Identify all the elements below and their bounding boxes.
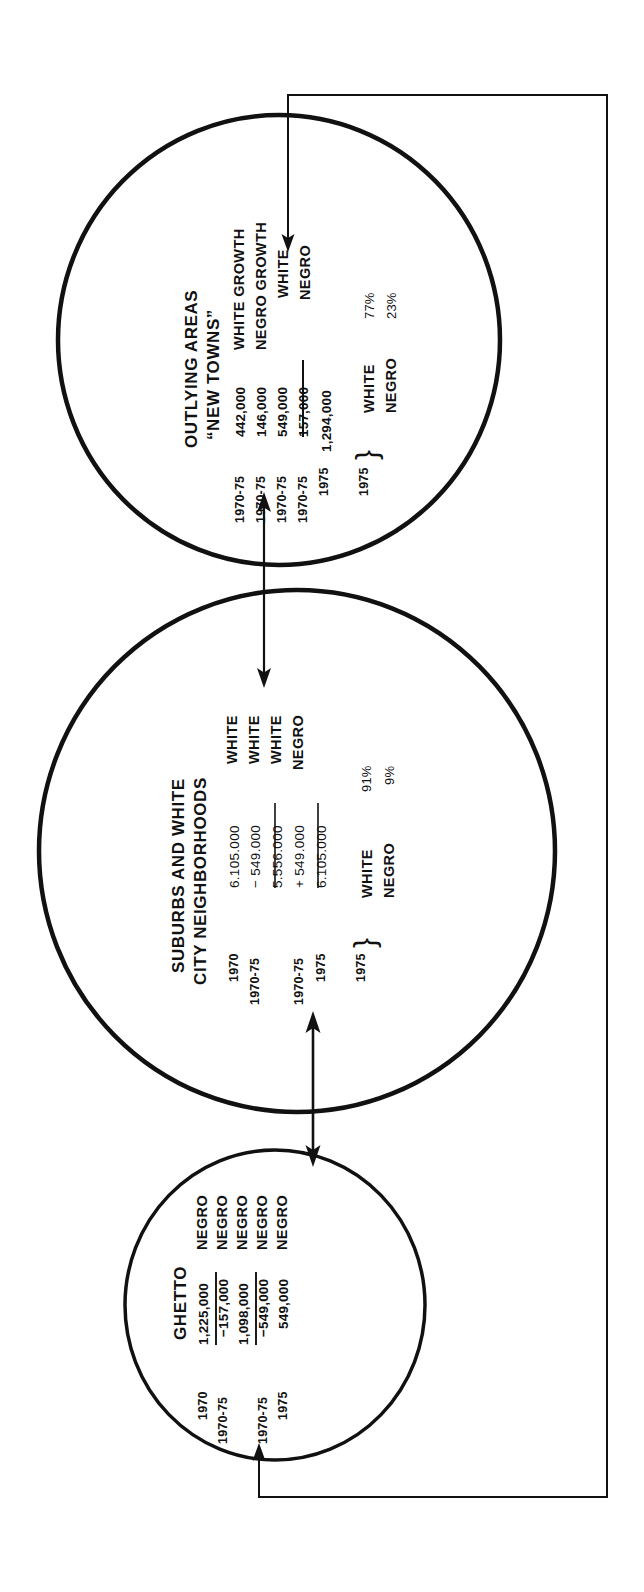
- outlying-year-2: 1970-75: [255, 476, 268, 523]
- suburbs-summary-group-2: NEGRO: [382, 843, 397, 898]
- outlying-title-line2: “NEW TOWNS”: [205, 309, 222, 440]
- suburbs-value-3: 5.556.000: [271, 825, 285, 888]
- feedback-loop-path: [253, 95, 608, 1497]
- suburbs-summary-pct-1: 91%: [360, 765, 373, 792]
- outlying-title-line1: OUTLYING AREAS: [183, 290, 200, 448]
- outlying-summary-pct-1: 77%: [363, 292, 376, 319]
- suburbs-year-4: 1975: [315, 953, 328, 982]
- suburbs-summary-brace: }: [350, 938, 380, 948]
- outlying-value-3: 549,000: [276, 387, 290, 437]
- outlying-summary-brace: }: [352, 450, 382, 460]
- suburbs-year-3: 1970-75: [293, 958, 306, 1005]
- suburbs-title-line1: SUBURBS AND WHITE: [170, 778, 187, 973]
- outlying-summary-group-2: NEGRO: [384, 358, 399, 413]
- ghetto-year-1: 1970: [197, 1391, 210, 1420]
- ghetto-year-3: 1970-75: [257, 1397, 270, 1444]
- suburbs-year-1: 1970: [228, 953, 241, 982]
- outlying-year-1: 1970-75: [234, 476, 247, 523]
- outlying-group-2: NEGRO GROWTH: [254, 222, 269, 350]
- ghetto-title: GHETTO: [172, 1266, 189, 1340]
- suburbs-summary-pct-2: 9%: [383, 766, 396, 785]
- ghetto-value-2: −157,000: [217, 1279, 231, 1337]
- ghetto-group-3: NEGRO: [235, 1195, 250, 1250]
- outlying-group-4: NEGRO: [298, 245, 313, 300]
- suburbs-group-1: WHITE: [225, 715, 240, 764]
- ghetto-value-1: 1,225,000: [197, 1283, 211, 1345]
- outlying-year-4: 1970-75: [297, 476, 310, 523]
- outlying-group-1: WHITE GROWTH: [232, 228, 247, 350]
- ghetto-year-2: 1970-75: [217, 1397, 230, 1444]
- suburbs-group-4: NEGRO: [291, 715, 306, 770]
- outlying-summary-year: 1975: [358, 467, 371, 496]
- outlying-summary-pct-2: 23%: [385, 292, 398, 319]
- ghetto-group-1: NEGRO: [195, 1195, 210, 1250]
- outlying-value-1: 442,000: [234, 387, 248, 437]
- suburbs-title-line2: CITY NEIGHBORHOODS: [192, 777, 209, 985]
- suburbs-value-1: 6.105.000: [228, 825, 242, 888]
- ghetto-value-5: 549,000: [277, 1279, 291, 1329]
- outlying-value-2: 146,000: [255, 387, 269, 437]
- ghetto-group-2: NEGRO: [215, 1195, 230, 1250]
- suburbs-value-2: − 549.000: [249, 825, 263, 888]
- suburbs-group-2: WHITE: [247, 715, 262, 764]
- suburbs-value-5: 6.105.000: [315, 825, 329, 888]
- outlying-year-5: 1975: [318, 467, 331, 496]
- suburbs-value-4: + 549.000: [293, 825, 307, 888]
- outlying-value-4: 157,000: [297, 387, 311, 437]
- suburbs-summary-year: 1975: [355, 953, 368, 982]
- ghetto-value-4: −549,000: [257, 1279, 271, 1337]
- suburbs-year-2: 1970-75: [249, 958, 262, 1005]
- ghetto-year-4: 1975: [277, 1391, 290, 1420]
- ghetto-group-5: NEGRO: [275, 1195, 290, 1250]
- outlying-value-5: 1,294,000: [320, 390, 334, 452]
- suburbs-group-3: WHITE: [269, 715, 284, 764]
- suburbs-summary-group-1: WHITE: [360, 849, 375, 898]
- diagram-canvas: OUTLYING AREAS “NEW TOWNS” WHITE GROWTH …: [0, 0, 644, 1592]
- ghetto-group-4: NEGRO: [255, 1195, 270, 1250]
- connector-ghetto-to-suburbs: [306, 1011, 321, 1167]
- outlying-year-3: 1970-75: [276, 476, 289, 523]
- ghetto-value-3: 1,098,000: [237, 1283, 251, 1345]
- outlying-group-3: WHITE: [276, 249, 291, 298]
- diagram-vector-layer: [0, 0, 644, 1592]
- outlying-summary-group-1: WHITE: [362, 364, 377, 413]
